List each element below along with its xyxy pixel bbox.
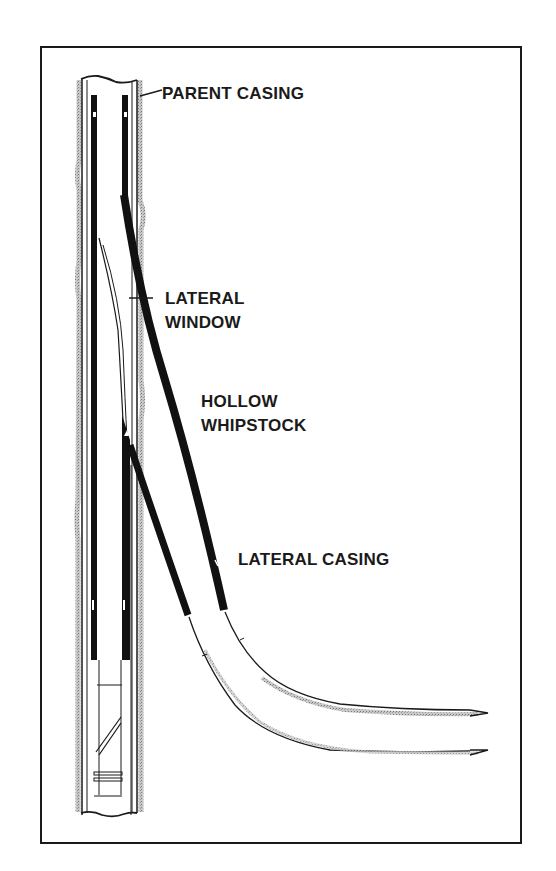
label-hollow-whipstock: HOLLOW WHIPSTOCK: [201, 390, 306, 438]
figure-frame: [41, 47, 521, 843]
label-lateral-casing: LATERAL CASING: [238, 548, 389, 572]
label-hollow-whipstock-line1: HOLLOW: [201, 390, 306, 414]
lateral-borehole: [189, 612, 488, 755]
label-lateral-window-line2: WINDOW: [165, 311, 244, 335]
label-lateral-window-line1: LATERAL: [165, 287, 244, 311]
parent-casing-leader: [140, 90, 162, 96]
hollow-whipstock: [99, 238, 130, 440]
label-hollow-whipstock-line2: WHIPSTOCK: [201, 414, 306, 438]
label-parent-casing: PARENT CASING: [162, 82, 304, 106]
label-lateral-window: LATERAL WINDOW: [165, 287, 244, 335]
